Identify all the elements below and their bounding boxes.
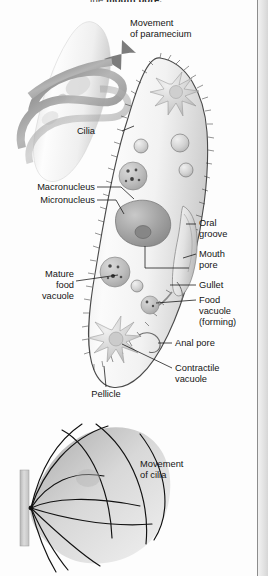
label-mature-food-vacuole: Mature food vacuole — [42, 269, 76, 302]
label-oral-groove: Oral groove — [199, 218, 227, 240]
label-movement-of-paramecium: Movement of paramecium — [130, 18, 192, 40]
page-gutter — [258, 0, 268, 576]
label-macronucleus: Macronucleus — [37, 182, 97, 193]
vacuole-small-1 — [134, 139, 148, 153]
vacuole-small-2 — [171, 134, 189, 152]
label-contractile-vacuole: Contractile vacuole — [175, 363, 219, 385]
food-vacuole-forming — [141, 296, 159, 314]
label-anal-pore: Anal pore — [175, 338, 215, 349]
label-food-vacuole-forming: Food vacuole (forming) — [199, 295, 236, 328]
cell-wall — [20, 470, 29, 546]
label-movement-of-cilia: Movement of cilia — [140, 459, 183, 481]
vacuole-small-3 — [179, 163, 193, 177]
label-cilia: Cilia — [77, 126, 97, 137]
figure-artwork — [0, 0, 268, 576]
micronucleus — [135, 226, 151, 239]
mature-food-vacuole — [119, 162, 147, 190]
label-micronucleus: Micronucleus — [40, 195, 97, 206]
label-pellicle: Pellicle — [76, 389, 136, 400]
mature-food-vacuole-2 — [100, 257, 130, 287]
cilia-beat-diagram — [20, 424, 170, 572]
paramecium-figure: the mouth pore. — [0, 0, 268, 576]
label-mouth-pore: Mouth pore — [199, 249, 225, 271]
label-gullet: Gullet — [199, 280, 223, 291]
cilium-base — [29, 506, 34, 511]
macronucleus — [115, 200, 170, 246]
